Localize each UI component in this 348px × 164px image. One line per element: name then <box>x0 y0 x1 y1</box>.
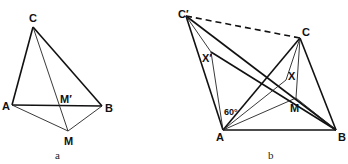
segment-xprime-b <box>211 52 336 130</box>
segment-cprime-xprime <box>186 16 211 52</box>
caption-b: b <box>268 149 274 161</box>
figure-b: C′ C X′ X M A B 60° b <box>178 8 346 161</box>
label-c: C <box>29 12 37 24</box>
segment-a-x <box>223 80 286 130</box>
segment-ab <box>12 105 102 106</box>
label-m: M <box>64 135 73 147</box>
label-x: X <box>288 70 296 82</box>
angle-label-60: 60° <box>224 107 238 117</box>
label-a: A <box>2 100 10 112</box>
segment-am <box>12 105 68 131</box>
segment-xprime-a <box>211 52 223 130</box>
segment-bm <box>68 106 102 131</box>
label-m: M <box>290 102 299 114</box>
segment-cprime-c-dashed <box>186 16 300 38</box>
caption-a: a <box>55 149 60 161</box>
geometry-figures: C A B M′ M a C′ C X′ X M A B 60° b <box>0 0 348 164</box>
label-b: B <box>338 131 346 143</box>
segment-cprime-a <box>186 16 223 130</box>
label-b: B <box>105 102 113 114</box>
label-m-prime: M′ <box>60 93 72 105</box>
label-a: A <box>216 131 224 143</box>
label-x-prime: X′ <box>202 52 212 64</box>
label-c: C <box>302 26 310 38</box>
segment-cm <box>33 27 68 131</box>
figure-a: C A B M′ M a <box>2 12 113 161</box>
label-c-prime: C′ <box>178 8 189 20</box>
segment-ca <box>12 27 33 105</box>
